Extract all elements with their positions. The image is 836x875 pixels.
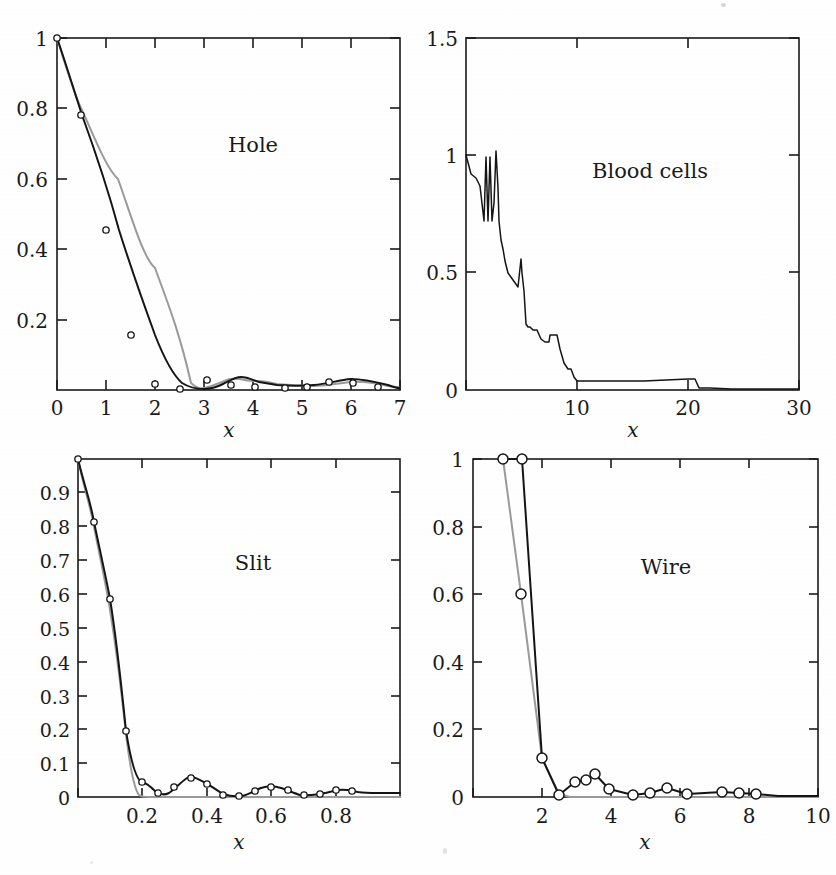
x-tick-label: 5 bbox=[296, 396, 309, 420]
chart-wire: 1 0.8 0.6 0.4 0.2 0 2 4 6 8 10 x Wire bbox=[418, 437, 836, 875]
panel-hole: 1 0.8 0.6 0.4 0.2 0 1 2 3 4 5 6 7 x Hole bbox=[0, 0, 418, 438]
series-theory-line bbox=[78, 459, 400, 797]
chart-blood-cells: 1.5 1 0.5 0 10 20 30 x Blood cells bbox=[418, 0, 836, 438]
y-tick-label: 0.1 bbox=[40, 753, 70, 775]
x-tick-label: 2 bbox=[536, 804, 549, 828]
x-tick-label: 4 bbox=[605, 804, 618, 828]
y-axis-ticks bbox=[57, 38, 400, 320]
y-tick-label: 0.7 bbox=[40, 550, 70, 572]
series-measured-markers bbox=[75, 456, 355, 799]
series-measured-markers bbox=[498, 454, 761, 800]
x-tick-label: 1 bbox=[100, 396, 113, 420]
y-tick-label: 0.6 bbox=[16, 168, 48, 192]
y-tick-label: 0.8 bbox=[16, 97, 48, 121]
panel-title-hole: Hole bbox=[228, 133, 278, 157]
scan-speck bbox=[443, 848, 447, 854]
y-tick-label: 0.3 bbox=[40, 686, 70, 708]
y-tick-label: 1 bbox=[35, 27, 48, 51]
y-tick-label: 1.5 bbox=[426, 27, 458, 51]
x-tick-label: 10 bbox=[805, 804, 830, 828]
x-tick-label: 4 bbox=[247, 396, 260, 420]
series-measured-line bbox=[57, 38, 400, 389]
x-tick-label: 2 bbox=[149, 396, 162, 420]
x-tick-label: 10 bbox=[564, 396, 589, 420]
series-theory-line bbox=[57, 38, 400, 388]
y-tick-label: 1 bbox=[451, 448, 464, 472]
y-tick-label: 0.9 bbox=[40, 482, 70, 504]
y-tick-label: 0.8 bbox=[40, 516, 70, 538]
x-tick-label: 20 bbox=[675, 396, 700, 420]
y-tick-label: 0.6 bbox=[432, 583, 464, 607]
y-tick-label: 0 bbox=[58, 787, 70, 809]
chart-hole: 1 0.8 0.6 0.4 0.2 0 1 2 3 4 5 6 7 x Hole bbox=[0, 0, 418, 438]
x-axis-title: x bbox=[223, 418, 234, 438]
x-tick-label: 7 bbox=[394, 396, 407, 420]
y-axis-ticks bbox=[466, 38, 799, 272]
panel-wire: 1 0.8 0.6 0.4 0.2 0 2 4 6 8 10 x Wire bbox=[418, 437, 836, 875]
x-tick-label: 0.4 bbox=[191, 804, 223, 828]
scan-speck bbox=[90, 861, 93, 864]
x-tick-label: 8 bbox=[743, 804, 756, 828]
y-tick-label: 0 bbox=[451, 786, 464, 810]
x-axis-ticks bbox=[57, 38, 400, 390]
x-axis-title: x bbox=[627, 418, 638, 438]
panel-blood-cells: 1.5 1 0.5 0 10 20 30 x Blood cells bbox=[418, 0, 836, 438]
series-measured-markers bbox=[54, 35, 381, 392]
y-tick-label: 0.6 bbox=[40, 584, 70, 606]
y-tick-label: 0 bbox=[445, 379, 458, 403]
multi-panel-figure: 1 0.8 0.6 0.4 0.2 0 1 2 3 4 5 6 7 x Hole bbox=[0, 0, 836, 875]
x-tick-label: 0.6 bbox=[255, 804, 287, 828]
x-tick-label: 6 bbox=[674, 804, 687, 828]
series-measured-line bbox=[466, 151, 799, 389]
series-theory-line bbox=[503, 459, 818, 797]
x-axis-ticks bbox=[466, 38, 799, 390]
x-tick-label: 30 bbox=[786, 396, 811, 420]
y-tick-label: 0.4 bbox=[40, 652, 70, 674]
plot-frame bbox=[466, 38, 799, 390]
y-axis-ticks bbox=[78, 492, 400, 763]
y-tick-label: 0.5 bbox=[426, 261, 458, 285]
panel-title-slit: Slit bbox=[235, 551, 272, 575]
x-tick-label: 0.8 bbox=[320, 804, 352, 828]
x-tick-label: 3 bbox=[198, 396, 211, 420]
x-axis-ticks bbox=[78, 459, 336, 797]
x-axis-title: x bbox=[233, 830, 244, 854]
panel-title-wire: Wire bbox=[641, 555, 691, 579]
y-tick-label: 1 bbox=[445, 144, 458, 168]
y-tick-label: 0.5 bbox=[40, 618, 70, 640]
series-measured-line bbox=[78, 459, 400, 796]
chart-slit: 0.9 0.8 0.7 0.6 0.5 0.4 0.3 0.2 0.1 0 0.… bbox=[0, 437, 418, 875]
plot-frame bbox=[78, 459, 400, 797]
panel-title-blood-cells: Blood cells bbox=[592, 159, 708, 183]
y-tick-label: 0.2 bbox=[16, 309, 48, 333]
y-tick-label: 0.4 bbox=[432, 651, 464, 675]
y-tick-label: 0.2 bbox=[432, 718, 464, 742]
y-tick-label: 0.8 bbox=[432, 516, 464, 540]
series-measured-line bbox=[503, 459, 818, 796]
panel-slit: 0.9 0.8 0.7 0.6 0.5 0.4 0.3 0.2 0.1 0 0.… bbox=[0, 437, 418, 875]
scan-speck bbox=[721, 3, 726, 7]
x-tick-label: 0.2 bbox=[126, 804, 158, 828]
x-axis-title: x bbox=[639, 830, 650, 854]
y-tick-label: 0.4 bbox=[16, 238, 48, 262]
x-tick-label: 0 bbox=[51, 396, 64, 420]
plot-frame bbox=[57, 38, 400, 390]
y-tick-label: 0.2 bbox=[40, 719, 70, 741]
x-tick-label: 6 bbox=[345, 396, 358, 420]
